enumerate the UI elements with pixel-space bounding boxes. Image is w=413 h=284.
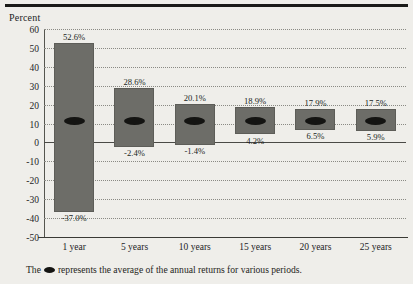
y-axis-tick-label: 20 <box>30 101 40 111</box>
ellipse-marker-icon <box>44 267 55 273</box>
y-axis-tick-label: 0 <box>34 138 39 148</box>
low-value-label: -37.0% <box>62 213 87 223</box>
x-axis-category-label: 25 years <box>346 242 406 252</box>
low-value-label: -1.4% <box>184 146 205 156</box>
low-value-label: 4.2% <box>246 136 264 146</box>
high-value-label: 52.6% <box>63 32 85 42</box>
bar-group: 20.1%-1.4% <box>165 29 225 237</box>
y-axis-tick-label: 10 <box>30 120 40 130</box>
y-axis-tick-label: -30 <box>26 195 39 205</box>
x-axis-category-label: 10 years <box>165 242 225 252</box>
low-value-label: 5.9% <box>367 132 385 142</box>
y-axis-tick-label: -50 <box>26 233 39 243</box>
high-value-label: 28.6% <box>123 77 145 87</box>
average-marker-icon <box>184 117 205 125</box>
range-bar <box>175 104 215 145</box>
y-axis-tick-label: -40 <box>26 214 39 224</box>
y-axis-tick-label: 40 <box>30 63 40 73</box>
x-axis-category-label: 5 years <box>104 242 164 252</box>
low-value-label: -2.4% <box>124 148 145 158</box>
x-axis-category-label: 1 year <box>44 242 104 252</box>
high-value-label: 20.1% <box>184 93 206 103</box>
x-axis-line <box>38 237 408 238</box>
low-value-label: 6.5% <box>307 131 325 141</box>
average-marker-icon <box>305 117 326 125</box>
bar-group: 17.5%5.9% <box>346 29 406 237</box>
chart-figure: Percent 6050403020100-10-20-30-40-5052.6… <box>0 0 413 284</box>
x-axis-category-label: 15 years <box>225 242 285 252</box>
average-marker-icon <box>64 117 85 125</box>
average-marker-icon <box>245 117 266 125</box>
y-axis-tick-label: -10 <box>26 157 39 167</box>
average-marker-icon <box>365 117 386 125</box>
bar-group: 18.9%4.2% <box>225 29 285 237</box>
caption-text-after: represents the average of the annual ret… <box>58 264 302 275</box>
top-rule-divider <box>5 4 408 7</box>
chart-caption: Therepresents the average of the annual … <box>26 264 302 275</box>
y-axis-tick-label: 60 <box>30 25 40 35</box>
high-value-label: 17.9% <box>304 98 326 108</box>
y-axis-tick-label: -20 <box>26 176 39 186</box>
bar-group: 52.6%-37.0% <box>44 29 104 237</box>
y-axis-title: Percent <box>9 12 40 23</box>
bar-group: 17.9%6.5% <box>285 29 345 237</box>
average-marker-icon <box>124 117 145 125</box>
high-value-label: 17.5% <box>365 98 387 108</box>
x-axis-category-label: 20 years <box>285 242 345 252</box>
plot-area: 6050403020100-10-20-30-40-5052.6%-37.0%2… <box>44 29 406 237</box>
range-bar <box>54 43 94 212</box>
y-axis-tick-label: 50 <box>30 44 40 54</box>
bar-group: 28.6%-2.4% <box>104 29 164 237</box>
high-value-label: 18.9% <box>244 96 266 106</box>
caption-text-before: The <box>26 264 41 275</box>
y-axis-tick-label: 30 <box>30 82 40 92</box>
